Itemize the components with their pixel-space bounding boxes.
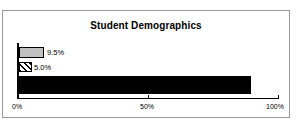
bar-value-label-1: 5.0% [34, 63, 51, 72]
bar-series-0 [19, 47, 44, 58]
x-axis-label-50: 50% [140, 103, 154, 110]
x-axis-label-0: 0% [12, 103, 22, 110]
x-axis-label-100: 100% [266, 103, 284, 110]
plot-area: 0% 50% 100% 89.2% 9.5% 5.0% [3, 11, 290, 118]
bar-series-2: 89.2% [19, 76, 251, 94]
x-axis-tick-100 [278, 95, 279, 99]
bar-series-1 [19, 62, 32, 72]
bar-value-label-0: 9.5% [47, 48, 64, 57]
x-axis-tick-0 [18, 95, 19, 99]
chart-frame: Student Demographics 0% 50% 100% 89.2% 9… [2, 10, 290, 118]
x-axis-tick-50 [148, 95, 149, 99]
